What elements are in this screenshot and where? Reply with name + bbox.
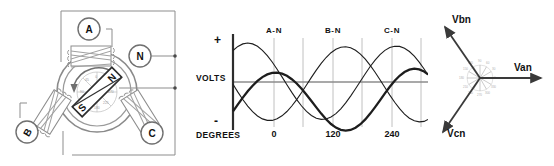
svg-text:180: 180	[459, 76, 464, 80]
generator-cutaway-panel: 0 315 270 225 180 135 90 45 S	[0, 0, 196, 166]
junction-dot-n-top	[173, 54, 177, 58]
junction-dot-n-bottom	[173, 86, 177, 90]
terminal-b: B	[16, 121, 38, 143]
phasor-diagram-svg: 030 6090 120150 180210 240270 300330	[428, 0, 554, 166]
dial-deg-225: 225	[103, 101, 109, 105]
dial-deg-90: 90	[80, 90, 84, 94]
generator-cutaway-svg: 0 315 270 225 180 135 90 45 S	[0, 0, 196, 166]
curve-label-c-n: C-N	[377, 26, 407, 35]
terminal-c: C	[141, 122, 163, 144]
phasor-vector-vcn	[443, 78, 480, 132]
dial-deg-180: 180	[94, 106, 100, 110]
svg-text:210: 210	[463, 85, 468, 89]
y-axis-title: VOLTS	[196, 73, 226, 83]
terminal-a-label: A	[85, 24, 92, 35]
terminal-c-label: C	[148, 128, 155, 139]
waveform-chart-svg	[196, 0, 428, 166]
phasor-diagram-panel: 030 6090 120150 180210 240270 300330 Vbn…	[428, 0, 554, 166]
svg-text:300: 300	[485, 91, 490, 95]
coil-a	[68, 46, 115, 67]
three-phase-generator-figure: 0 315 270 225 180 135 90 45 S	[0, 0, 554, 166]
x-tick-0: 0	[264, 129, 284, 139]
dial-deg-45: 45	[85, 78, 89, 82]
svg-text:30: 30	[492, 67, 496, 71]
waveform-chart-panel: + - VOLTS DEGREES 0 120 240 A-N B-N C-N	[196, 0, 428, 166]
x-tick-240: 240	[382, 129, 402, 139]
svg-text:330: 330	[491, 85, 496, 89]
phasor-label-vcn: Vcn	[447, 128, 465, 139]
curve-a-n	[233, 69, 428, 131]
wire-a-branch	[106, 29, 112, 47]
x-axis-title: DEGREES	[196, 130, 240, 140]
curve-label-a-n: A-N	[259, 26, 289, 35]
axis-minus-sign: -	[214, 114, 218, 128]
terminal-n-label: N	[136, 51, 143, 62]
svg-text:60: 60	[486, 61, 490, 65]
terminal-a: A	[78, 18, 100, 40]
x-tick-120: 120	[323, 129, 343, 139]
wire-b-branch	[20, 103, 27, 118]
terminal-n: N	[129, 45, 151, 67]
curve-c-n	[233, 47, 428, 122]
axis-plus-sign: +	[214, 33, 221, 47]
svg-text:150: 150	[463, 67, 468, 71]
dial-deg-0: 0	[95, 75, 97, 79]
phasor-label-van: Van	[514, 62, 532, 73]
svg-text:270: 270	[477, 93, 482, 97]
curve-label-b-n: B-N	[318, 26, 348, 35]
svg-text:90: 90	[478, 59, 482, 63]
phasor-label-vbn: Vbn	[452, 14, 471, 25]
